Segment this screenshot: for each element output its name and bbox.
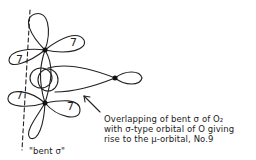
lobe-label-lower-right: 7: [67, 100, 74, 113]
upper-lobe-top: [28, 13, 48, 50]
annotation-line-3: rise to the μ-orbital, No.9: [104, 134, 214, 144]
dashed-axis: [22, 10, 30, 150]
lower-lobe-right: [45, 101, 80, 117]
lobe-label-upper-left: 7: [16, 53, 23, 66]
annotation-line-1: Overlapping of bent σ of O₂: [104, 114, 223, 124]
bent-sigma-lobe: [40, 50, 51, 103]
upper-atom-dot: [43, 48, 48, 53]
O-atom-dot: [113, 76, 118, 81]
bent-sigma-label: "bent σ": [29, 146, 65, 156]
small-lobe-O: [115, 72, 142, 84]
annotation-arrow: [84, 96, 100, 112]
lower-lobe-bottom: [29, 103, 45, 139]
lobe-label-lower-left: 7: [16, 89, 23, 102]
annotation-line-2: with σ-type orbital of O giving: [104, 124, 234, 134]
lobe-label-upper-right: 7: [70, 36, 77, 49]
lower-atom-dot: [43, 101, 48, 106]
upper-lobe-right: [45, 35, 85, 51]
lower-lobe-left: [8, 92, 45, 107]
